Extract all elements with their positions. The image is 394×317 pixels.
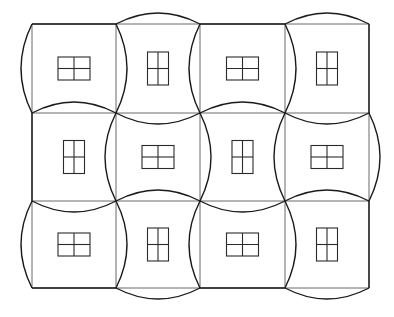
- landscape-window-icon: [58, 57, 90, 80]
- landscape-window-icon: [311, 146, 343, 169]
- vertical-arc-edge: [105, 113, 116, 201]
- portrait-window-icon: [148, 52, 169, 85]
- portrait-window-icon: [232, 141, 253, 174]
- horizontal-arc-edge: [116, 13, 200, 24]
- horizontal-arc-edge: [32, 102, 116, 113]
- portrait-window-icon: [64, 141, 85, 174]
- quilt-diagram: [0, 0, 394, 317]
- horizontal-arc-edge: [285, 13, 369, 24]
- vertical-arc-edge: [285, 201, 296, 288]
- portrait-window-icon: [317, 52, 338, 85]
- horizontal-arc-edge: [285, 113, 369, 124]
- vertical-arc-edge: [116, 201, 127, 288]
- landscape-window-icon: [142, 146, 174, 169]
- portrait-window-icon: [317, 228, 338, 261]
- landscape-window-icon: [227, 57, 259, 80]
- grid-lines: [32, 24, 369, 288]
- vertical-arc-edge: [200, 113, 211, 201]
- vertical-arc-edge: [189, 201, 200, 288]
- landscape-window-icon: [58, 233, 90, 256]
- vertical-arc-edge: [116, 24, 127, 113]
- diagram-canvas: [0, 0, 394, 317]
- horizontal-arc-edge: [285, 288, 369, 299]
- horizontal-arc-edge: [116, 113, 200, 124]
- horizontal-arc-edge: [116, 190, 200, 201]
- landscape-window-icon: [227, 233, 259, 256]
- vertical-arc-edge: [274, 113, 285, 201]
- horizontal-arc-edge: [200, 102, 285, 113]
- vertical-arc-edge: [369, 113, 380, 201]
- vertical-arc-edge: [21, 24, 32, 113]
- vertical-arc-edge: [189, 24, 200, 113]
- horizontal-arc-edge: [200, 201, 285, 212]
- portrait-window-icon: [148, 228, 169, 261]
- vertical-arc-edge: [21, 201, 32, 288]
- horizontal-arc-edge: [285, 190, 369, 201]
- horizontal-arc-edge: [116, 288, 200, 299]
- horizontal-arc-edge: [32, 201, 116, 212]
- vertical-arc-edge: [285, 24, 296, 113]
